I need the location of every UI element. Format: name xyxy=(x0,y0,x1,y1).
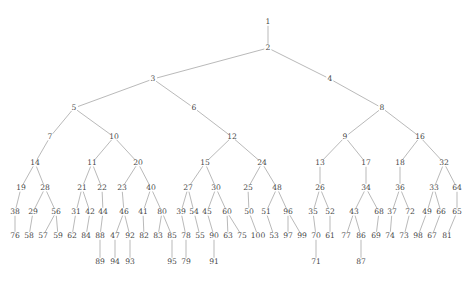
tree-node-label: 29 xyxy=(28,208,38,216)
tree-node-label: 11 xyxy=(87,159,97,167)
tree-node-label: 22 xyxy=(97,184,107,192)
tree-node-label: 91 xyxy=(209,258,219,266)
tree-node-label: 28 xyxy=(40,184,50,192)
tree-node-label: 77 xyxy=(341,232,351,240)
tree-node-label: 20 xyxy=(133,159,143,167)
tree-node-label: 37 xyxy=(387,208,397,216)
tree-node-label: 58 xyxy=(24,232,34,240)
tree-node-label: 9 xyxy=(343,133,348,141)
tree-node-label: 97 xyxy=(283,232,293,240)
tree-node-label: 82 xyxy=(139,232,149,240)
tree-node-label: 16 xyxy=(415,133,425,141)
tree-node-label: 54 xyxy=(189,208,199,216)
tree-node-label: 47 xyxy=(110,232,120,240)
tree-node-label: 64 xyxy=(452,184,462,192)
tree-node-label: 63 xyxy=(223,232,233,240)
tree-node-label: 52 xyxy=(325,208,335,216)
tree-node-label: 23 xyxy=(117,184,127,192)
tree-node-label: 71 xyxy=(311,258,321,266)
tree-node-label: 40 xyxy=(146,184,156,192)
tree-node-label: 50 xyxy=(244,208,254,216)
tree-node-label: 94 xyxy=(110,258,120,266)
tree-node-label: 12 xyxy=(227,133,237,141)
tree-node-label: 15 xyxy=(200,159,210,167)
tree-node-label: 27 xyxy=(183,184,193,192)
tree-node-label: 1 xyxy=(266,18,271,26)
tree-node-label: 43 xyxy=(349,208,359,216)
tree-node-label: 68 xyxy=(374,208,384,216)
tree-node-label: 48 xyxy=(272,184,282,192)
tree-node-label: 60 xyxy=(222,208,232,216)
tree-node-label: 95 xyxy=(167,258,177,266)
tree-node-label: 32 xyxy=(439,159,449,167)
tree-node-label: 33 xyxy=(429,184,439,192)
tree-node-label: 78 xyxy=(181,232,191,240)
tree-node-label: 18 xyxy=(395,159,405,167)
tree-node-label: 2 xyxy=(266,44,271,52)
tree-node-label: 98 xyxy=(413,232,423,240)
tree-node-label: 25 xyxy=(243,184,253,192)
tree-node-label: 99 xyxy=(297,232,307,240)
tree-node-label: 72 xyxy=(405,208,415,216)
tree-node-label: 10 xyxy=(109,133,119,141)
tree-node-label: 89 xyxy=(95,258,105,266)
tree-node-label: 57 xyxy=(38,232,48,240)
tree-node-label: 45 xyxy=(202,208,212,216)
tree-node-label: 49 xyxy=(422,208,432,216)
tree-node-label: 80 xyxy=(157,208,167,216)
tree-node-label: 35 xyxy=(308,208,318,216)
tree-node-label: 51 xyxy=(261,208,271,216)
tree-node-label: 44 xyxy=(98,208,108,216)
tree-node-label: 81 xyxy=(442,232,452,240)
tree-node-label: 79 xyxy=(181,258,191,266)
tree-node-label: 19 xyxy=(16,184,26,192)
tree-nodes-layer: 1234568710129161411201524131718321928212… xyxy=(0,0,476,302)
tree-node-label: 67 xyxy=(427,232,437,240)
tree-node-label: 31 xyxy=(71,208,81,216)
tree-node-label: 70 xyxy=(311,232,321,240)
tree-node-label: 100 xyxy=(251,232,266,240)
tree-node-label: 3 xyxy=(151,75,156,83)
tree-node-label: 4 xyxy=(328,75,333,83)
tree-node-label: 6 xyxy=(192,104,197,112)
tree-node-label: 13 xyxy=(315,159,325,167)
tree-node-label: 83 xyxy=(153,232,163,240)
tree-node-label: 14 xyxy=(30,159,40,167)
tree-node-label: 75 xyxy=(237,232,247,240)
tree-node-label: 65 xyxy=(452,208,462,216)
tree-node-label: 92 xyxy=(125,232,135,240)
tree-node-label: 86 xyxy=(356,232,366,240)
tree-node-label: 74 xyxy=(385,232,395,240)
tree-node-label: 38 xyxy=(10,208,20,216)
tree-node-label: 87 xyxy=(356,258,366,266)
tree-node-label: 34 xyxy=(361,184,371,192)
tree-node-label: 84 xyxy=(81,232,91,240)
tree-diagram: 1234568710129161411201524131718321928212… xyxy=(0,0,476,302)
tree-node-label: 69 xyxy=(371,232,381,240)
tree-node-label: 88 xyxy=(95,232,105,240)
tree-node-label: 41 xyxy=(138,208,148,216)
tree-node-label: 24 xyxy=(257,159,267,167)
tree-node-label: 73 xyxy=(399,232,409,240)
tree-node-label: 55 xyxy=(195,232,205,240)
tree-node-label: 17 xyxy=(361,159,371,167)
tree-node-label: 5 xyxy=(72,104,77,112)
tree-node-label: 26 xyxy=(315,184,325,192)
tree-node-label: 96 xyxy=(283,208,293,216)
tree-node-label: 62 xyxy=(67,232,77,240)
tree-node-label: 21 xyxy=(77,184,87,192)
tree-node-label: 90 xyxy=(209,232,219,240)
tree-node-label: 66 xyxy=(436,208,446,216)
tree-node-label: 39 xyxy=(176,208,186,216)
tree-node-label: 30 xyxy=(211,184,221,192)
tree-node-label: 7 xyxy=(48,133,53,141)
tree-node-label: 53 xyxy=(269,232,279,240)
tree-node-label: 93 xyxy=(125,258,135,266)
tree-node-label: 8 xyxy=(380,104,385,112)
tree-node-label: 42 xyxy=(85,208,95,216)
tree-node-label: 56 xyxy=(51,208,61,216)
tree-node-label: 46 xyxy=(119,208,129,216)
tree-node-label: 61 xyxy=(325,232,335,240)
tree-node-label: 36 xyxy=(395,184,405,192)
tree-node-label: 85 xyxy=(167,232,177,240)
